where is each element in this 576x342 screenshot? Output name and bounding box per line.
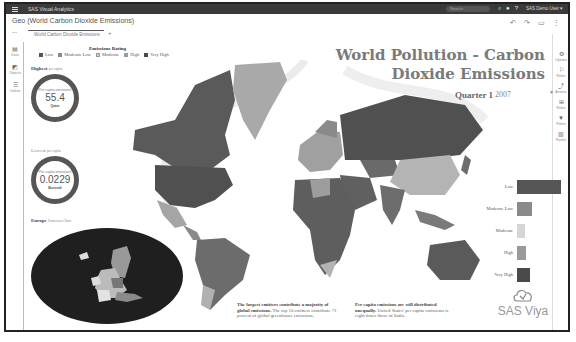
emissions-bar-chart: Low Moderate Low Moderate High Very High bbox=[475, 180, 565, 300]
bar-low[interactable] bbox=[517, 180, 561, 194]
year-value: 2007 bbox=[495, 90, 511, 99]
save-icon[interactable]: ▭ bbox=[538, 19, 545, 27]
nav-label: Objects bbox=[9, 71, 21, 75]
lowest-label: Lowest per capita bbox=[31, 148, 61, 153]
nav-actions[interactable]: ⤴Actions bbox=[553, 80, 569, 96]
ranks-icon: ▥ bbox=[558, 131, 564, 138]
bar-row-high: High bbox=[475, 246, 565, 260]
bar-very-high[interactable] bbox=[517, 268, 530, 282]
note-per-capita: Per capita emissions are still distribut… bbox=[355, 302, 455, 319]
app-bar: SAS Visual Analytics Search ⌕ ● ? SAS De… bbox=[6, 4, 568, 14]
cloud-icon bbox=[512, 288, 534, 302]
nav-label: Rules bbox=[557, 106, 566, 110]
legend-item[interactable]: Moderate bbox=[96, 52, 119, 57]
search-icon[interactable]: ⌕ bbox=[498, 5, 501, 12]
nav-outline[interactable]: ☰ Outline bbox=[6, 78, 24, 96]
tab-world-co2[interactable]: World Carbon Dioxide Emissions bbox=[28, 30, 104, 38]
nav-ranks[interactable]: ▥Ranks bbox=[553, 128, 569, 144]
objects-icon: ◩ bbox=[12, 64, 18, 71]
nav-label: Roles bbox=[557, 74, 566, 78]
highest-gauge[interactable]: Per capita emissions 55.4 Qatar bbox=[31, 74, 79, 122]
brand-text: SAS Viya bbox=[498, 304, 548, 318]
nav-roles[interactable]: ⚐Roles bbox=[553, 64, 569, 80]
nav-data[interactable]: ▤ Data bbox=[6, 42, 24, 60]
more-icon[interactable]: ⋮ bbox=[553, 19, 560, 27]
bar-high[interactable] bbox=[517, 246, 526, 260]
report-title: Geo (World Carbon Dioxide Emissions) bbox=[12, 17, 134, 24]
lowest-gauge[interactable]: Per capita emissions 0.0229 Burundi bbox=[31, 156, 79, 204]
highest-label: Highest per capita bbox=[31, 66, 62, 71]
actions-icon: ⤴ bbox=[558, 83, 564, 90]
bar-moderate[interactable] bbox=[517, 224, 525, 238]
nav-label: Data bbox=[11, 53, 18, 57]
europe-shapes bbox=[31, 228, 183, 324]
filter-icon: ▼ bbox=[558, 115, 564, 122]
nav-label: Ranks bbox=[556, 138, 566, 142]
bar-row-moderate-low: Moderate Low bbox=[475, 202, 565, 216]
quarter-label: Quarter 1 bbox=[455, 90, 493, 100]
legend-item[interactable]: Very High bbox=[144, 52, 169, 57]
nav-options[interactable]: ⚙Options bbox=[553, 48, 569, 64]
bar-moderate-low[interactable] bbox=[517, 202, 532, 216]
year-dropdown[interactable]: 2007 ▼ bbox=[495, 90, 555, 99]
lowest-country: Burundi bbox=[48, 186, 61, 190]
legend-item[interactable]: Low bbox=[39, 52, 53, 57]
bar-row-low: Low bbox=[475, 180, 565, 194]
highest-value: 55.4 bbox=[45, 92, 64, 104]
sas-viya-logo: SAS Viya bbox=[483, 288, 563, 318]
legend-title: Emissions Rating bbox=[89, 46, 126, 51]
options-icon: ⚙ bbox=[559, 51, 564, 58]
menu-icon[interactable] bbox=[12, 7, 18, 12]
nav-filters[interactable]: ▼Filters bbox=[553, 112, 569, 128]
dashboard-title: World Pollution - Carbon Dioxide Emissio… bbox=[285, 46, 545, 84]
report-canvas: Emissions Rating Low Moderate Low Modera… bbox=[25, 40, 551, 330]
lowest-value: 0.0229 bbox=[40, 174, 71, 186]
app-window: SAS Visual Analytics Search ⌕ ● ? SAS De… bbox=[4, 2, 570, 332]
bar-row-moderate: Moderate bbox=[475, 224, 565, 238]
undo-icon[interactable]: ↶ bbox=[510, 19, 516, 27]
nav-rules[interactable]: ⊞Rules bbox=[553, 96, 569, 112]
highest-country: Qatar bbox=[50, 104, 59, 108]
nav-label: Actions bbox=[555, 90, 566, 94]
report-actions: ↶ ↷ ▭ ⋮ bbox=[510, 19, 560, 27]
data-icon: ▤ bbox=[12, 46, 18, 53]
tab-menu-button[interactable]: ⋯ bbox=[12, 30, 17, 35]
legend-item[interactable]: Moderate Low bbox=[58, 52, 91, 57]
settings-icon[interactable]: ● bbox=[506, 5, 510, 12]
nav-label: Options bbox=[555, 58, 567, 62]
add-tab-button[interactable]: + bbox=[108, 30, 112, 36]
left-pane-nav: ▤ Data ◩ Objects ☰ Outline bbox=[6, 42, 24, 330]
legend-item[interactable]: High bbox=[124, 52, 139, 57]
nav-label: Filters bbox=[556, 122, 566, 126]
europe-label: Europe Emissions Chart bbox=[31, 218, 71, 223]
nav-label: Outline bbox=[9, 89, 20, 93]
app-name: SAS Visual Analytics bbox=[28, 6, 74, 12]
tab-bar: ⋯ World Carbon Dioxide Emissions + bbox=[6, 30, 568, 38]
note-largest-emitters: The largest emitters contribute a majori… bbox=[237, 302, 337, 319]
rules-icon: ⊞ bbox=[559, 99, 564, 106]
chevron-down-icon: ▼ bbox=[549, 90, 554, 95]
search-input[interactable]: Search bbox=[446, 6, 490, 12]
roles-icon: ⚐ bbox=[559, 67, 564, 74]
emissions-legend: Low Moderate Low Moderate High Very High bbox=[39, 52, 169, 57]
outline-icon: ☰ bbox=[13, 82, 18, 89]
redo-icon[interactable]: ↷ bbox=[524, 19, 530, 27]
help-icon[interactable]: ? bbox=[515, 5, 518, 12]
nav-objects[interactable]: ◩ Objects bbox=[6, 60, 24, 78]
europe-map[interactable] bbox=[31, 228, 183, 324]
user-menu[interactable]: SAS Demo User ▾ bbox=[526, 6, 563, 11]
bar-row-very-high: Very High bbox=[475, 268, 565, 282]
